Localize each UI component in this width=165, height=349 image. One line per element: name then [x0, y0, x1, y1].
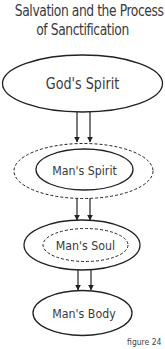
figure-caption: figure 24 [127, 337, 161, 347]
node-mans-body: Man's Body [33, 291, 132, 336]
edge-mans-soul-to-body [78, 270, 91, 290]
edge-gods-to-mans-spirit [77, 112, 90, 142]
node-label: Man's Body [52, 306, 115, 321]
edge-mans-spirit-to-soul [77, 198, 90, 220]
node-label: God's Spirit [46, 75, 120, 92]
node-mans-soul: Man's Soul [24, 220, 140, 270]
node-label: Man's Soul [56, 239, 115, 254]
node-mans-spirit: Man's Spirit [14, 144, 153, 199]
node-gods-spirit: God's Spirit [3, 55, 163, 112]
node-label: Man's Spirit [52, 163, 117, 178]
sanctification-diagram: God's Spirit Man's Spirit Man's Soul Man… [0, 0, 165, 349]
